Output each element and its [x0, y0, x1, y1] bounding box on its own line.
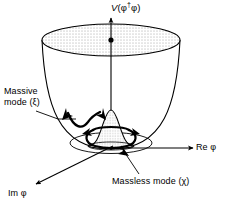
mexican-hat-potential-figure: V(φ†φ) Re φ Im φ Massive mode (ξ) Massle…	[0, 0, 230, 205]
potential-axis-label: V(φ†φ)	[111, 2, 141, 13]
imaginary-phi-axis-label: Im φ	[8, 188, 27, 199]
imaginary-phi-axis-line	[36, 146, 113, 184]
massive-mode-label-line1: Massive	[4, 86, 38, 96]
real-phi-axis-label: Re φ	[196, 142, 216, 153]
massive-mode-label-line2: mode (ξ)	[4, 97, 40, 107]
massive-mode-label: Massive mode (ξ)	[4, 86, 62, 108]
massless-mode-label: Massless mode (χ)	[112, 176, 189, 187]
unstable-maximum-dot	[108, 37, 113, 42]
